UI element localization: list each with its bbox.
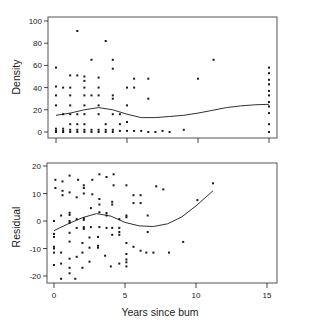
y-tick-label: 40	[33, 84, 42, 93]
data-point	[91, 129, 93, 131]
data-point	[69, 267, 71, 269]
data-point	[119, 123, 121, 125]
data-point	[268, 67, 270, 69]
x-tick-label: 10	[192, 291, 201, 300]
data-point	[152, 252, 154, 254]
data-point	[76, 30, 78, 32]
data-point	[126, 87, 128, 89]
data-point	[112, 113, 114, 115]
data-point	[112, 59, 114, 61]
data-point	[60, 215, 62, 217]
data-point	[69, 220, 71, 222]
data-point	[76, 129, 78, 131]
data-point	[113, 184, 115, 186]
smooth-curve	[56, 104, 269, 117]
y-tick-label: 80	[33, 39, 42, 48]
data-point	[83, 217, 85, 219]
data-point	[83, 131, 85, 133]
data-point	[212, 182, 214, 184]
data-point	[81, 242, 83, 244]
data-point	[55, 128, 57, 130]
data-point	[83, 228, 85, 230]
data-point	[98, 77, 100, 79]
data-point	[268, 94, 270, 96]
data-point	[89, 261, 91, 263]
data-point	[147, 231, 149, 233]
data-point	[147, 78, 149, 80]
x-tick-label: 0	[52, 291, 57, 300]
data-point	[106, 227, 108, 229]
y-tick-label: 20	[33, 106, 42, 115]
data-point	[133, 78, 135, 80]
y-tick-label: -20	[29, 272, 41, 281]
data-point	[69, 191, 71, 193]
data-point	[105, 131, 107, 133]
data-point	[140, 130, 142, 132]
data-point	[55, 86, 57, 88]
data-point	[125, 265, 127, 267]
data-point	[62, 194, 64, 196]
data-point	[213, 59, 215, 61]
data-point	[83, 104, 85, 106]
data-point	[76, 113, 78, 115]
data-point	[111, 201, 113, 203]
data-point	[91, 193, 93, 195]
data-point	[196, 199, 198, 201]
data-point	[111, 204, 113, 206]
data-point	[97, 245, 99, 247]
data-point	[91, 179, 93, 181]
data-point	[154, 131, 156, 133]
data-point	[53, 233, 55, 235]
residual-panel: -20-1001020051015	[29, 162, 277, 300]
data-point	[55, 67, 57, 69]
data-point	[77, 179, 79, 181]
data-point	[98, 113, 100, 115]
data-point	[118, 218, 120, 220]
data-point	[69, 123, 71, 125]
data-point	[268, 106, 270, 108]
data-point	[268, 83, 270, 85]
data-point	[69, 272, 71, 274]
data-point	[98, 226, 100, 228]
x-tick-label: 5	[123, 291, 128, 300]
data-point	[98, 211, 100, 213]
data-point	[197, 78, 199, 80]
data-point	[133, 202, 135, 204]
data-point	[98, 173, 100, 175]
data-point	[112, 98, 114, 100]
data-point	[83, 76, 85, 78]
data-point	[162, 130, 164, 132]
data-point	[53, 220, 55, 222]
plot-frame	[48, 17, 277, 138]
data-point	[69, 222, 71, 224]
years-axis-label: Years since bum	[121, 306, 198, 318]
data-point	[268, 131, 270, 133]
data-point	[83, 226, 85, 228]
data-point	[112, 94, 114, 96]
data-point	[69, 241, 71, 243]
data-point	[105, 40, 107, 42]
data-point	[54, 179, 56, 181]
data-point	[55, 94, 57, 96]
y-tick-label: 100	[29, 17, 43, 26]
data-point	[55, 131, 57, 133]
data-point	[69, 129, 71, 131]
data-point	[76, 218, 78, 220]
density-panel: 020406080100	[29, 17, 277, 143]
data-point	[125, 259, 127, 261]
data-point	[105, 129, 107, 131]
data-point	[268, 112, 270, 114]
data-point	[98, 87, 100, 89]
data-point	[268, 123, 270, 125]
data-point	[105, 123, 107, 125]
data-point	[76, 227, 78, 229]
data-point	[69, 214, 71, 216]
data-point	[168, 252, 170, 254]
data-point	[62, 87, 64, 89]
data-point	[133, 194, 135, 196]
data-point	[69, 232, 71, 234]
data-point	[106, 176, 108, 178]
data-point	[112, 131, 114, 133]
data-point	[162, 188, 164, 190]
data-point	[147, 98, 149, 100]
